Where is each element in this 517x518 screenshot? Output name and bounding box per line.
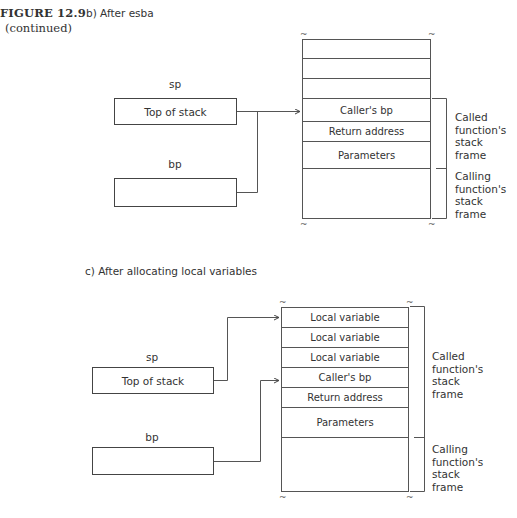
frame-bracket-b — [432, 99, 447, 219]
connectors-layer — [0, 0, 517, 518]
sp-pointer-arrow-c — [214, 318, 279, 381]
bp-pointer-line-b — [237, 112, 258, 193]
frame-bracket-c — [410, 307, 425, 492]
bp-pointer-arrow-c — [214, 381, 279, 462]
